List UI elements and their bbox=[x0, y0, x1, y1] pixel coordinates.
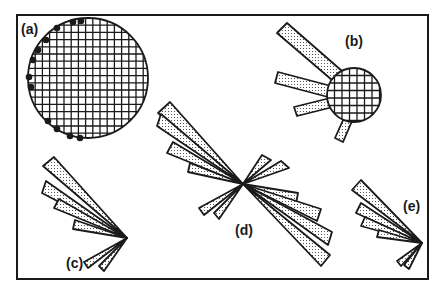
panel-b-circle-with-bars bbox=[275, 23, 381, 142]
label-c: (c) bbox=[66, 256, 83, 270]
boundary-dot bbox=[45, 118, 52, 125]
label-b: (b) bbox=[345, 34, 363, 48]
boundary-dot bbox=[35, 47, 42, 54]
boundary-dot bbox=[43, 37, 50, 44]
boundary-dot bbox=[54, 126, 61, 133]
boundary-dot bbox=[26, 74, 33, 81]
boundary-dot bbox=[54, 25, 61, 32]
stippled-bar bbox=[277, 23, 342, 80]
boundary-dot bbox=[70, 19, 77, 26]
label-e: (e) bbox=[403, 199, 420, 213]
label-d: (d) bbox=[235, 223, 253, 237]
panel-c-rose bbox=[42, 157, 127, 271]
boundary-dot bbox=[77, 135, 84, 142]
boundary-dot bbox=[78, 18, 85, 25]
boundary-dot bbox=[30, 57, 37, 64]
figure-canvas bbox=[0, 0, 447, 293]
panel-d-rose bbox=[157, 102, 332, 266]
boundary-dot bbox=[67, 133, 74, 140]
panel-e-rose bbox=[352, 180, 422, 269]
panel-a-circle bbox=[26, 18, 148, 142]
label-a: (a) bbox=[21, 22, 38, 36]
boundary-dot bbox=[28, 84, 35, 91]
stippled-bar bbox=[275, 72, 331, 97]
